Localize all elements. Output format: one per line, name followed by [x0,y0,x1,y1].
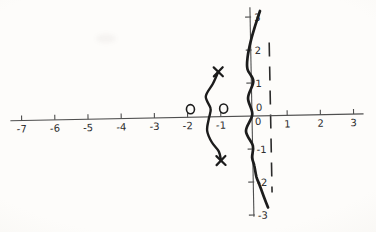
x-tick-label: -5 [83,122,93,133]
pole-marker [214,67,223,76]
y-tick-label: -3 [258,210,268,221]
y-tick-label: 2 [255,45,262,56]
x-tick-label: -2 [183,120,193,131]
root-locus-canvas: -7-6-5-4-3-2-101233210-1-2-3 [0,0,376,232]
x-tick-label: 3 [350,117,357,128]
x-tick-label: -3 [149,121,159,132]
x-tick-label: -4 [116,121,126,132]
x-tick-label: -7 [17,123,27,134]
root-locus-figure: -7-6-5-4-3-2-101233210-1-2-3 [0,0,376,232]
plot-group: -7-6-5-4-3-2-101233210-1-2-3 [8,5,365,226]
zero-marker [186,105,194,114]
y-tick-label: 0 [256,102,263,113]
x-tick-label: 0 [255,116,262,127]
y-tick-label: 1 [255,78,262,89]
asymptote-dashed-line [269,42,272,192]
x-tick-label: -1 [216,120,226,131]
x-tick-label: 2 [317,118,324,129]
y-tick-label: -1 [257,144,267,155]
x-tick-label: -6 [50,123,60,134]
x-tick-label: 1 [284,118,291,129]
zero-marker [220,104,228,113]
